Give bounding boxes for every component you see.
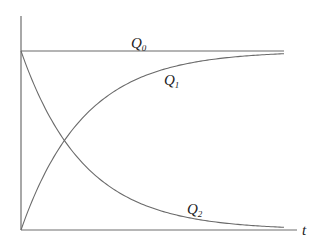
- label-q0: Q0: [131, 36, 146, 53]
- label-q1-sub: 1: [175, 80, 180, 90]
- label-q0-sub: 0: [142, 43, 147, 53]
- curve-q2: [21, 51, 284, 227]
- label-q2: Q2: [187, 202, 202, 219]
- label-q1-main: Q: [164, 72, 175, 88]
- chart-canvas: [0, 0, 324, 248]
- label-q1: Q1: [164, 73, 179, 90]
- curve-q1: [21, 54, 284, 230]
- label-q2-sub: 2: [198, 209, 203, 219]
- label-q0-main: Q: [131, 35, 142, 51]
- label-x-axis-t: t: [302, 223, 306, 238]
- label-q2-main: Q: [187, 201, 198, 217]
